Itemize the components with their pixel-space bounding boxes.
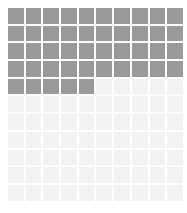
waffle-cell xyxy=(150,132,166,148)
waffle-cell xyxy=(167,185,183,201)
waffle-cell xyxy=(114,150,130,166)
waffle-cell xyxy=(96,43,112,59)
waffle-cell xyxy=(79,8,95,24)
waffle-cell xyxy=(43,132,59,148)
waffle-cell xyxy=(8,132,24,148)
waffle-cell xyxy=(26,8,42,24)
waffle-cell xyxy=(8,185,24,201)
waffle-cell xyxy=(43,43,59,59)
waffle-cell xyxy=(26,96,42,112)
waffle-cell xyxy=(8,26,24,42)
waffle-cell xyxy=(26,150,42,166)
waffle-cell xyxy=(96,114,112,130)
waffle-cell xyxy=(61,8,77,24)
waffle-cell xyxy=(167,43,183,59)
waffle-cell xyxy=(43,114,59,130)
waffle-cell xyxy=(150,61,166,77)
waffle-cell xyxy=(96,96,112,112)
waffle-cell xyxy=(132,8,148,24)
waffle-cell xyxy=(114,43,130,59)
waffle-cell xyxy=(96,8,112,24)
waffle-cell xyxy=(114,114,130,130)
waffle-cell xyxy=(61,132,77,148)
waffle-cell xyxy=(167,79,183,95)
waffle-cell xyxy=(114,79,130,95)
waffle-cell xyxy=(150,167,166,183)
waffle-cell xyxy=(150,114,166,130)
waffle-cell xyxy=(26,43,42,59)
waffle-cell xyxy=(8,96,24,112)
waffle-grid xyxy=(8,8,183,201)
waffle-cell xyxy=(150,79,166,95)
waffle-cell xyxy=(79,114,95,130)
waffle-cell xyxy=(167,8,183,24)
waffle-cell xyxy=(114,132,130,148)
waffle-cell xyxy=(132,114,148,130)
waffle-cell xyxy=(167,167,183,183)
waffle-cell xyxy=(43,96,59,112)
waffle-cell xyxy=(61,61,77,77)
waffle-cell xyxy=(167,114,183,130)
waffle-cell xyxy=(43,185,59,201)
waffle-cell xyxy=(114,167,130,183)
waffle-cell xyxy=(114,185,130,201)
waffle-cell xyxy=(8,167,24,183)
waffle-cell xyxy=(132,79,148,95)
waffle-cell xyxy=(8,8,24,24)
waffle-cell xyxy=(150,43,166,59)
waffle-cell xyxy=(79,167,95,183)
waffle-cell xyxy=(79,79,95,95)
waffle-cell xyxy=(79,61,95,77)
waffle-cell xyxy=(150,8,166,24)
waffle-cell xyxy=(43,79,59,95)
waffle-cell xyxy=(8,150,24,166)
waffle-cell xyxy=(61,79,77,95)
waffle-cell xyxy=(132,96,148,112)
waffle-cell xyxy=(167,61,183,77)
waffle-cell xyxy=(26,114,42,130)
waffle-cell xyxy=(114,8,130,24)
waffle-cell xyxy=(61,185,77,201)
waffle-cell xyxy=(8,43,24,59)
waffle-cell xyxy=(61,96,77,112)
waffle-cell xyxy=(132,43,148,59)
waffle-cell xyxy=(61,167,77,183)
waffle-cell xyxy=(79,185,95,201)
waffle-cell xyxy=(96,185,112,201)
waffle-cell xyxy=(43,150,59,166)
waffle-cell xyxy=(61,114,77,130)
waffle-cell xyxy=(96,132,112,148)
waffle-cell xyxy=(8,79,24,95)
waffle-cell xyxy=(96,79,112,95)
waffle-cell xyxy=(26,185,42,201)
waffle-cell xyxy=(150,26,166,42)
waffle-cell xyxy=(79,26,95,42)
waffle-cell xyxy=(132,167,148,183)
waffle-cell xyxy=(8,114,24,130)
waffle-cell xyxy=(167,96,183,112)
waffle-cell xyxy=(167,26,183,42)
waffle-cell xyxy=(26,79,42,95)
waffle-chart xyxy=(0,0,187,213)
waffle-cell xyxy=(8,61,24,77)
waffle-cell xyxy=(79,132,95,148)
waffle-cell xyxy=(132,132,148,148)
waffle-cell xyxy=(43,8,59,24)
waffle-cell xyxy=(79,150,95,166)
waffle-cell xyxy=(132,150,148,166)
waffle-cell xyxy=(61,150,77,166)
waffle-cell xyxy=(150,96,166,112)
waffle-cell xyxy=(132,61,148,77)
waffle-cell xyxy=(96,150,112,166)
waffle-cell xyxy=(61,26,77,42)
waffle-cell xyxy=(26,26,42,42)
waffle-cell xyxy=(96,61,112,77)
waffle-cell xyxy=(79,43,95,59)
waffle-cell xyxy=(79,96,95,112)
waffle-cell xyxy=(43,61,59,77)
waffle-cell xyxy=(150,185,166,201)
waffle-cell xyxy=(26,132,42,148)
waffle-cell xyxy=(114,26,130,42)
waffle-cell xyxy=(132,26,148,42)
waffle-cell xyxy=(43,26,59,42)
